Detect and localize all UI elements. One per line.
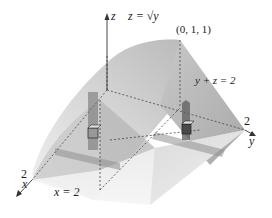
point-label: (0, 1, 1) — [176, 23, 211, 36]
y-axis-label: y — [248, 134, 255, 148]
x-plane-label: x = 2 — [53, 185, 79, 199]
y-tick-label: 2 — [244, 114, 250, 128]
x-tick-label: 2 — [21, 167, 27, 181]
solid-region-diagram: z x y z = √y (0, 1, 1) y + z = 2 x = 2 2… — [0, 0, 272, 218]
z-axis-label: z — [110, 9, 116, 23]
plane-label: y + z = 2 — [194, 74, 236, 86]
curve-surface-label: z = √y — [127, 9, 159, 23]
